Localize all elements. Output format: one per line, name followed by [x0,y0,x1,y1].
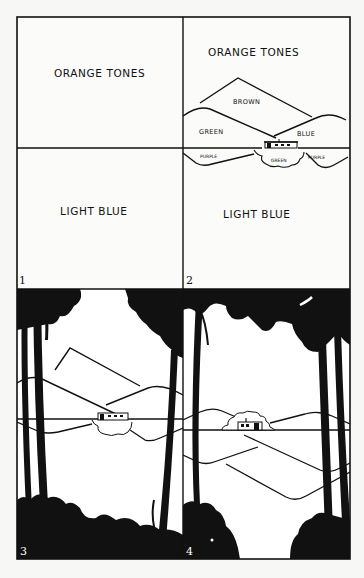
panel-2: ORANGE TONES BROWN GREEN BLUE PURPLE GRE… [183,17,350,289]
center-reflection-label: GREEN [271,158,287,163]
four-panel-landscape-illustration: ORANGE TONES LIGHT BLUE 1 ORANGE TONES [0,0,364,578]
panel-number: 4 [186,545,193,558]
left-reflection-label: PURPLE [200,154,217,159]
right-reflection-label: PURPLE [308,155,325,160]
right-hill-label: BLUE [297,130,315,138]
panel-1: ORANGE TONES LIGHT BLUE 1 [17,17,183,289]
panel-number: 1 [19,274,26,287]
panel-3: 3 [17,289,183,559]
sky-label: ORANGE TONES [54,67,145,79]
water-label: LIGHT BLUE [60,205,128,217]
left-hill-label: GREEN [199,128,224,136]
sky-label: ORANGE TONES [208,46,299,58]
panel-number: 2 [186,274,193,287]
back-mountain-label: BROWN [233,98,260,106]
panel-number: 3 [20,545,27,558]
water-label: LIGHT BLUE [223,208,291,220]
panel-4: 4 [183,289,350,559]
